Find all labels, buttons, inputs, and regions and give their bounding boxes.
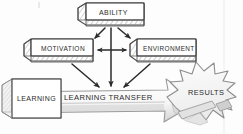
environment-box-side — [130, 39, 137, 56]
arrow-ability-to-environment — [118, 28, 130, 38]
learning-label: LEARNING — [17, 95, 56, 102]
learning-transfer-label: LEARNING TRANSFER — [64, 93, 153, 102]
learning-cube-side — [2, 79, 12, 112]
motivation-label: MOTIVATION — [41, 45, 85, 52]
node-results[interactable]: RESULTS — [167, 62, 236, 125]
diagram-svg: LEARNING TRANSFER LEARNING RESULTS ABILI… — [0, 0, 243, 134]
node-motivation[interactable]: MOTIVATION — [24, 39, 93, 62]
arrow-ability-to-motivation — [95, 28, 105, 38]
ability-box-side — [78, 3, 86, 20]
ability-label: ABILITY — [99, 9, 128, 16]
results-label: RESULTS — [188, 88, 224, 97]
motivation-box-side — [24, 39, 31, 56]
arrow-environment-to-transfer — [124, 64, 150, 87]
node-learning[interactable]: LEARNING — [2, 79, 61, 118]
diagram-canvas: LEARNING TRANSFER LEARNING RESULTS ABILI… — [0, 0, 243, 134]
motivation-box-bottom — [31, 56, 93, 62]
environment-box-bottom — [137, 56, 196, 62]
node-environment[interactable]: ENVIRONMENT — [130, 39, 196, 62]
environment-label: ENVIRONMENT — [143, 45, 195, 52]
node-ability[interactable]: ABILITY — [78, 3, 144, 26]
ability-box-bottom — [86, 20, 144, 26]
arrow-motivation-to-transfer — [72, 64, 99, 87]
